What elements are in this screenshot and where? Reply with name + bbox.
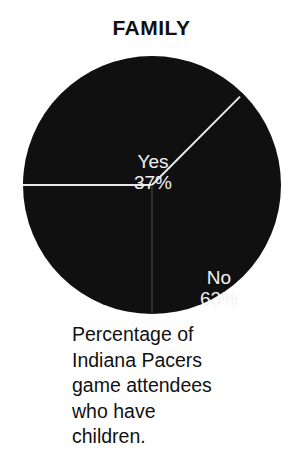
pie-label-no-name: No bbox=[180, 267, 258, 288]
pie-chart: Yes 37% No 63% bbox=[22, 55, 282, 315]
caption-line: Indiana Pacers bbox=[72, 348, 287, 374]
infographic-card: FAMILY Yes 37% No 63% Percentage of Indi… bbox=[0, 0, 303, 470]
chart-caption: Percentage of Indiana Pacers game attend… bbox=[72, 322, 287, 450]
pie-label-no-value: 63% bbox=[180, 288, 258, 309]
pie-label-yes-value: 37% bbox=[114, 172, 192, 193]
caption-line: who have bbox=[72, 399, 287, 425]
pie-label-no: No 63% bbox=[180, 267, 258, 309]
caption-line: Percentage of bbox=[72, 322, 287, 348]
caption-line: game attendees bbox=[72, 373, 287, 399]
page-title: FAMILY bbox=[0, 16, 303, 40]
pie-label-yes: Yes 37% bbox=[114, 151, 192, 193]
caption-line: children. bbox=[72, 424, 287, 450]
pie-label-yes-name: Yes bbox=[114, 151, 192, 172]
